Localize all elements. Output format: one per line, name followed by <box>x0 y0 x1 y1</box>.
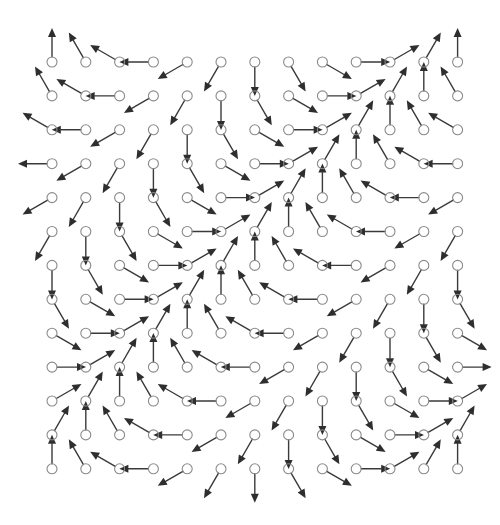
arrowhead-icon <box>207 207 217 215</box>
arrowhead-icon <box>139 274 149 282</box>
grid-node-circle <box>182 464 192 474</box>
arrow-shaft <box>361 83 378 93</box>
vector-arrow <box>373 134 388 159</box>
grid-node-circle <box>385 430 395 440</box>
grid-node-circle <box>216 193 226 203</box>
vector-arrow <box>259 181 284 196</box>
vector-arrow <box>122 338 137 363</box>
grid-node-circle <box>216 396 226 406</box>
arrow-shaft <box>166 65 183 75</box>
arrow-shaft <box>209 66 219 83</box>
vector-arrow <box>291 66 306 91</box>
vector-arrow <box>407 100 422 125</box>
arrowhead-icon <box>225 316 235 324</box>
grid-node-circle <box>148 91 158 101</box>
vector-arrow <box>56 336 81 351</box>
vector-arrow <box>460 405 475 430</box>
arrowhead-icon <box>129 338 137 348</box>
vector-arrow <box>462 384 487 399</box>
vector-arrow <box>170 100 185 125</box>
arrowhead-icon <box>272 236 280 246</box>
arrow-shaft <box>359 108 369 125</box>
vector-arrow <box>192 248 217 263</box>
vector-arrow <box>158 234 183 249</box>
arrow-shaft <box>233 404 250 414</box>
grid-node-circle <box>284 362 294 372</box>
arrowhead-icon <box>373 319 381 329</box>
vector-arrow <box>158 471 183 486</box>
arrowhead-icon <box>90 139 100 147</box>
vector-arrow <box>48 28 56 57</box>
arrow-shaft <box>107 168 117 185</box>
vector-arrow <box>69 202 84 227</box>
arrowhead-icon <box>124 418 134 426</box>
arrow-shaft <box>156 202 166 219</box>
arrowhead-icon <box>35 66 43 76</box>
grid-node-circle <box>351 193 361 203</box>
vector-arrow <box>56 79 81 94</box>
arrowhead-icon <box>264 116 272 126</box>
grid-node-circle <box>284 57 294 67</box>
arrowhead-icon <box>95 285 103 295</box>
grid-node-circle <box>81 227 91 237</box>
arrowhead-icon <box>69 33 77 43</box>
grid-node-circle <box>47 328 57 338</box>
arrowhead-icon <box>308 147 318 155</box>
grid-node-circle <box>385 294 395 304</box>
vector-arrow <box>238 270 253 295</box>
vector-arrow <box>192 437 217 452</box>
grid-node-circle <box>419 125 429 135</box>
arrow-shaft <box>393 74 403 91</box>
grid-node-circle <box>81 57 91 67</box>
vector-arrow <box>192 200 217 215</box>
vector-arrow <box>257 202 272 227</box>
vector-arrow <box>426 338 441 363</box>
grid-node-circle <box>148 159 158 169</box>
arrowhead-icon <box>204 82 212 92</box>
arrow-shaft <box>64 166 81 176</box>
arrowhead-icon <box>454 28 462 37</box>
arrowhead-icon <box>124 105 134 113</box>
grid-node-circle <box>250 159 260 169</box>
arrowhead-icon <box>103 183 111 193</box>
vector-arrow <box>136 372 151 397</box>
grid-node-circle <box>115 193 125 203</box>
arrowhead-icon <box>264 202 272 212</box>
vector-arrow <box>361 268 386 283</box>
grid-node-circle <box>351 328 361 338</box>
vector-arrow <box>441 66 456 91</box>
arrow-shaft <box>141 134 151 151</box>
arrowhead-icon <box>399 387 407 397</box>
arrowhead-icon <box>410 452 420 460</box>
vector-arrow <box>156 304 171 329</box>
grid-node-circle <box>250 464 260 474</box>
arrowhead-icon <box>331 455 339 465</box>
arrow-shaft <box>361 437 378 447</box>
arrowhead-icon <box>399 66 407 76</box>
arrowhead-icon <box>342 71 352 79</box>
arrowhead-icon <box>477 384 487 392</box>
grid-node-circle <box>453 227 463 237</box>
arrow-shaft <box>30 200 47 210</box>
grid-node-circle <box>250 362 260 372</box>
vector-arrow <box>428 200 453 215</box>
arrow-shaft <box>132 98 149 108</box>
vector-arrow <box>225 215 250 230</box>
arrow-shaft <box>267 287 284 297</box>
arrowhead-icon <box>136 149 144 159</box>
grid-node-circle <box>250 294 260 304</box>
vector-arrow <box>88 270 103 295</box>
arrow-shaft <box>199 355 216 365</box>
arrow-shaft <box>242 278 252 295</box>
vector-arrow <box>170 338 185 363</box>
vector-arrow <box>90 302 115 317</box>
arrow-shaft <box>56 336 73 346</box>
arrow-shaft <box>141 379 151 396</box>
arrowhead-icon <box>230 236 238 246</box>
arrowhead-icon <box>139 316 149 324</box>
vector-arrow <box>204 304 219 329</box>
arrowhead-icon <box>238 455 246 465</box>
vector-arrow <box>293 336 318 351</box>
arrowhead-icon <box>129 251 137 261</box>
grid-node-circle <box>250 57 260 67</box>
